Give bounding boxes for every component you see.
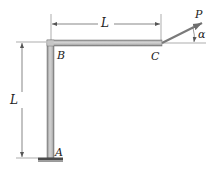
corner-joint (47, 40, 53, 45)
dimension-label-vertical: L (10, 94, 18, 106)
point-label-b: B (57, 50, 65, 61)
load-arrow (162, 23, 202, 43)
column-ab (47, 40, 54, 158)
beam-bc (47, 40, 162, 46)
base-shadow (38, 161, 63, 163)
point-label-a: A (55, 147, 63, 158)
point-label-c: C (151, 51, 159, 62)
left-dimension (16, 42, 46, 158)
angle-arc (193, 28, 194, 42)
angle-label-alpha: α (198, 29, 205, 40)
dimension-label-horizontal: L (101, 17, 109, 29)
frame-diagram (0, 0, 220, 172)
load-label-p: P (195, 9, 202, 20)
